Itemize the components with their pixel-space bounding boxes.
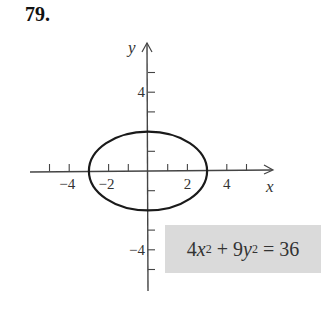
eq-var-x: x: [197, 238, 206, 261]
eq-plus: +: [212, 238, 233, 261]
x-tick-label: −4: [59, 176, 75, 192]
eq-rhs: = 36: [258, 238, 299, 261]
eq-coef-2: 9: [233, 238, 243, 261]
eq-coef-1: 4: [187, 238, 197, 261]
x-axis: [30, 170, 272, 172]
eq-var-y: y: [243, 238, 252, 261]
y-axis-label: y: [126, 38, 136, 57]
y-axis: [147, 43, 148, 291]
x-tick-label: −2: [99, 176, 115, 192]
y-tick-label: 4: [138, 84, 146, 100]
x-tick-label: 4: [223, 176, 231, 192]
x-axis-label: x: [265, 177, 274, 196]
y-tick-label: −4: [129, 242, 145, 258]
equation-label: 4x2 + 9y2 = 36: [165, 225, 321, 273]
x-tick-label: 2: [184, 176, 192, 192]
